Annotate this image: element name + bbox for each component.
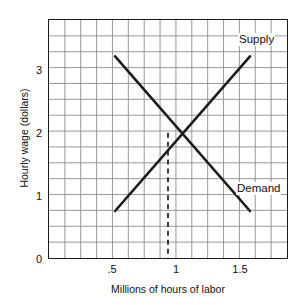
demand-label: Demand bbox=[236, 182, 281, 195]
y-tick-2: 2 bbox=[36, 128, 42, 139]
plot-area bbox=[48, 19, 288, 259]
y-tick-3: 3 bbox=[36, 65, 42, 76]
x-axis-tick-labels: .5 1 1.5 bbox=[48, 264, 288, 280]
series-layer bbox=[49, 20, 287, 258]
x-tick-0: .5 bbox=[107, 264, 116, 275]
y-axis-title: Hourly wage (dollars) bbox=[18, 53, 30, 223]
y-tick-1: 1 bbox=[36, 191, 42, 202]
x-tick-2: 1.5 bbox=[232, 264, 247, 275]
supply-demand-chart: 0 1 2 3 .5 1 1.5 Supply Demand Millions … bbox=[0, 0, 303, 305]
y-tick-0: 0 bbox=[36, 254, 42, 265]
x-axis-title: Millions of hours of labor bbox=[48, 283, 288, 295]
x-tick-1: 1 bbox=[173, 264, 179, 275]
supply-label: Supply bbox=[238, 33, 275, 46]
